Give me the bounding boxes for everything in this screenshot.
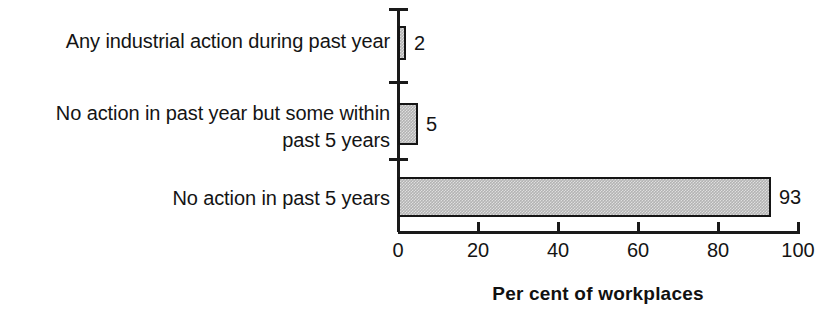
category-label-no-action-past-5-years: No action in past 5 years	[0, 185, 390, 212]
x-axis-tick-20	[477, 222, 480, 232]
bar-any-industrial-action[interactable]	[398, 26, 406, 60]
bar-chart-figure: Any industrial action during past year N…	[0, 0, 830, 323]
bar-row: 93	[398, 177, 798, 217]
x-axis-line	[398, 231, 800, 234]
bar-row: 5	[398, 103, 798, 145]
y-axis-top-tick	[389, 8, 408, 11]
x-axis-title: Per cent of workplaces	[398, 283, 798, 305]
x-axis-tick-label-20: 20	[467, 239, 489, 261]
bar-row: 2	[398, 26, 798, 60]
x-axis-tick-label-60: 60	[627, 239, 649, 261]
x-axis-tick-label-100: 100	[781, 239, 814, 261]
category-label-no-action-past-year-some-within-5: No action in past year but some within p…	[0, 100, 390, 154]
bar-value-label: 2	[414, 33, 425, 53]
bar-no-action-past-year-some-within-5[interactable]	[398, 103, 418, 145]
bar-value-label: 93	[779, 187, 801, 207]
x-axis-tick-100	[797, 222, 800, 232]
y-axis-category-tick-1	[389, 81, 408, 84]
x-axis-tick-label-80: 80	[707, 239, 729, 261]
x-axis-tick-60	[637, 222, 640, 232]
x-axis-tick-40	[557, 222, 560, 232]
y-axis-category-tick-2	[389, 158, 408, 161]
x-axis-tick-80	[717, 222, 720, 232]
x-axis-tick-label-40: 40	[547, 239, 569, 261]
x-axis-tick-0	[397, 222, 400, 232]
plot-area: 2 5 93	[398, 8, 798, 232]
x-axis-tick-label-0: 0	[392, 239, 403, 261]
bar-no-action-past-5-years[interactable]	[398, 177, 771, 217]
category-label-group: Any industrial action during past year N…	[0, 8, 390, 232]
category-label-any-industrial-action: Any industrial action during past year	[0, 28, 390, 55]
bar-value-label: 5	[426, 114, 437, 134]
